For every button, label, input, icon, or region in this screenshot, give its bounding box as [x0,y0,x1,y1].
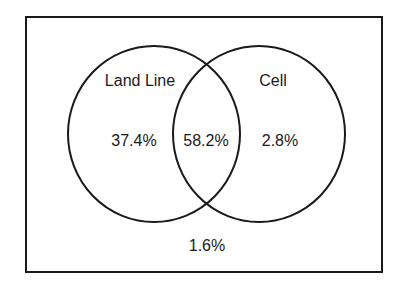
outside-value: 1.6% [189,238,225,254]
cell-label: Cell [259,73,287,89]
land-line-only-value: 37.4% [111,133,156,149]
cell-only-value: 2.8% [262,133,298,149]
intersection-value: 58.2% [183,133,228,149]
land-line-label: Land Line [105,73,175,89]
